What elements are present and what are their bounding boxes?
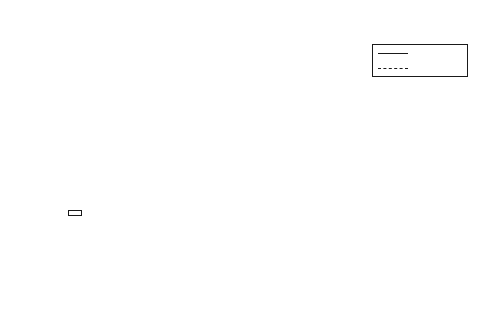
survival-chart-figure	[0, 0, 485, 309]
chart-legend	[372, 44, 468, 77]
legend-swatch-solid	[378, 53, 408, 54]
legend-item-cr	[378, 46, 466, 61]
p-value-annotation	[68, 210, 82, 216]
legend-swatch-dashed	[378, 68, 408, 69]
legend-item-no-cr	[378, 61, 466, 76]
